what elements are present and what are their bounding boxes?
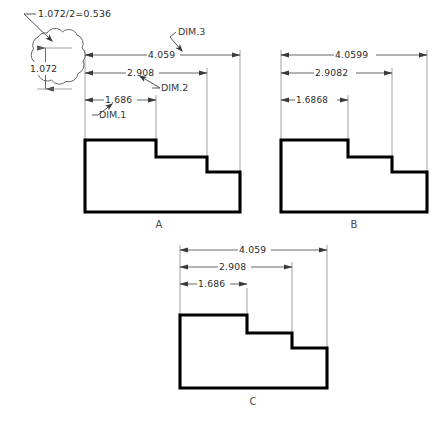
view-b-label: B <box>351 219 358 230</box>
drawing-canvas: 1.072 1.072/2=0.536 4.059 2.908 1.686 DI… <box>0 0 445 427</box>
dim3-label: DIM.3 <box>178 26 205 37</box>
revision-cloud-group: 1.072 <box>29 28 85 89</box>
view-c-step2-value: 2.908 <box>219 261 246 272</box>
view-a-label: A <box>156 219 163 230</box>
view-c-group: 4.059 2.908 1.686 C <box>180 243 327 407</box>
view-a-part-outline <box>85 140 240 212</box>
dim2-label: DIM.2 <box>161 82 188 93</box>
view-b-step1-value: 1.6868 <box>296 95 328 105</box>
view-a-overall-value: 4.059 <box>148 49 175 60</box>
engineering-drawing-svg: 1.072 1.072/2=0.536 4.059 2.908 1.686 DI… <box>0 0 445 427</box>
view-b-overall-value: 4.0599 <box>335 49 368 60</box>
view-b-group: 4.0599 2.9082 1.6868 B <box>281 48 427 230</box>
view-c-label: C <box>250 396 257 407</box>
view-c-part-outline <box>180 315 327 388</box>
view-a-step1-value: 1.686 <box>105 94 132 105</box>
view-c-step1-value: 1.686 <box>198 278 225 289</box>
note-leader-group: 1.072/2=0.536 <box>24 8 111 41</box>
view-a-group: 4.059 2.908 1.686 DIM.3 DIM.2 DIM.1 A <box>85 26 240 230</box>
view-b-step2-value: 2.9082 <box>315 67 348 78</box>
note-text: 1.072/2=0.536 <box>38 8 111 19</box>
view-b-part-outline <box>281 140 427 212</box>
cloud-dimension-value: 1.072 <box>30 63 57 74</box>
revision-cloud-shape <box>31 28 85 84</box>
dim1-label: DIM.1 <box>99 109 126 120</box>
view-c-overall-value: 4.059 <box>239 244 266 255</box>
